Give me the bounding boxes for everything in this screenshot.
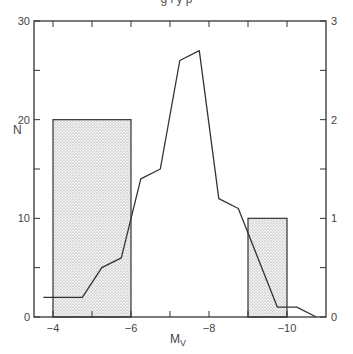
- histogram-bar: [53, 120, 131, 317]
- x-tick-label: −8: [203, 322, 216, 334]
- chart: −4−6−8−1001020300123 N MV: [0, 0, 353, 354]
- y-left-tick-label: 30: [18, 15, 30, 27]
- y-left-tick-label: 10: [18, 212, 30, 224]
- x-tick-label: −4: [47, 322, 60, 334]
- y-right-tick-label: 2: [331, 114, 337, 126]
- x-axis-label-sub: V: [180, 338, 186, 348]
- histogram-bar: [248, 218, 287, 317]
- y-right-tick-label: 3: [331, 15, 337, 27]
- x-tick-label: −10: [278, 322, 297, 334]
- x-axis-label-main: M: [170, 332, 180, 346]
- x-tick-label: −6: [125, 322, 138, 334]
- x-axis-label: MV: [170, 332, 186, 348]
- y-axis-label-left: N: [13, 123, 22, 137]
- y-right-tick-label: 1: [331, 212, 337, 224]
- y-left-tick-label: 0: [24, 311, 30, 323]
- y-right-tick-label: 0: [331, 311, 337, 323]
